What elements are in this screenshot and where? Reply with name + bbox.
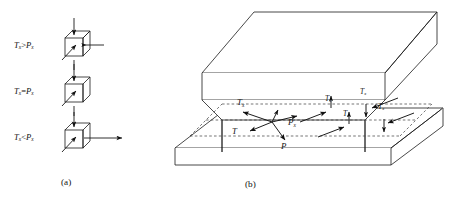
vector-label-Tx: Tx [237, 98, 244, 107]
cube-case-1 [62, 18, 104, 70]
flank-label-Tx-3: Tx [360, 88, 366, 96]
upper-beam [202, 12, 437, 100]
flank-label-Tx-1: Tx [325, 95, 331, 103]
panel-b [166, 12, 443, 165]
cube-case-2 [62, 64, 90, 116]
condition-label-1: Tx>Px [14, 41, 34, 50]
condition-label-2: Tx=Px [14, 87, 34, 96]
vector-label-T: T [232, 127, 237, 136]
flank-label-Tx-4: Tx [378, 103, 384, 111]
caption-b: (b) [245, 180, 256, 189]
caption-a: (a) [61, 178, 71, 187]
vector-label-P: P [281, 142, 286, 151]
technical-figure [0, 0, 452, 205]
condition-label-3: Tx<Px [14, 133, 34, 142]
panel-a [62, 18, 122, 152]
vector-label-Px: Px [288, 118, 296, 127]
cube-case-3 [62, 112, 122, 152]
flank-label-Tx-2: Tx [343, 110, 349, 118]
